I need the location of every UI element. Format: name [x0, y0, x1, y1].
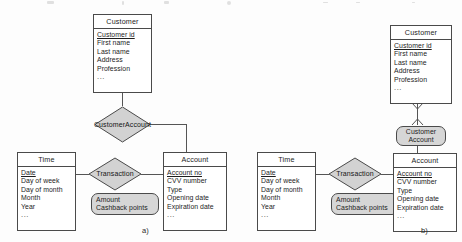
entity-attribute: Month: [21, 194, 75, 202]
entity-attribute-list: Customer id First name Last name Address…: [94, 29, 151, 82]
entity-attribute: Year: [261, 203, 315, 211]
entity-attribute-list: Account no CVV number Type Opening date …: [394, 168, 456, 221]
entity-attribute: Date: [261, 169, 315, 177]
entity-time-a: Time Date Day of week Day of month Month…: [17, 152, 76, 231]
entity-attribute: CVV number: [167, 177, 226, 185]
entity-attribute: First name: [394, 50, 451, 58]
relationship-attribute: Cashback points: [336, 204, 398, 212]
entity-attribute: Address: [394, 67, 451, 75]
entity-attribute: Day of month: [261, 186, 315, 194]
entity-attribute: ...: [394, 84, 451, 91]
connector-customer-account-to-account-h-a: [150, 124, 187, 125]
entity-title: Customer: [391, 26, 451, 40]
connector-customer-account-to-account-v-a: [186, 124, 187, 152]
entity-attribute-list: Date Day of week Day of month Month Year…: [258, 167, 315, 220]
entity-customer-a: Customer Customer id First name Last nam…: [93, 14, 152, 93]
entity-account-b: Account Account no CVV number Type Openi…: [393, 153, 457, 232]
entity-attribute: Date: [21, 169, 75, 177]
entity-time-b: Time Date Day of week Day of month Month…: [257, 152, 316, 231]
connector-customer-to-customer-account-a: [122, 93, 123, 106]
relationship-transaction-b: Transaction: [328, 157, 382, 191]
relationship-customer-account-b: Customer Account: [396, 126, 446, 146]
entity-title: Time: [18, 153, 75, 167]
entity-attribute: CVV number: [397, 178, 456, 186]
relationship-attribute: Amount: [96, 196, 158, 204]
connector-transaction-to-account-a: [141, 174, 163, 175]
scan-noise-strip: [0, 0, 462, 7]
entity-title: Account: [164, 153, 226, 167]
entity-attribute: Opening date: [167, 194, 226, 202]
entity-title: Time: [258, 153, 315, 167]
entity-attribute: Account no: [397, 170, 456, 178]
relationship-attribute: Amount: [336, 196, 398, 204]
entity-attribute: ...: [261, 211, 315, 218]
entity-attribute: Expiration date: [167, 203, 226, 211]
entity-attribute: Day of week: [21, 177, 75, 185]
relationship-customer-account-a: Customer Account: [94, 106, 151, 143]
entity-title: Account: [394, 154, 456, 168]
entity-title: Customer: [94, 15, 151, 29]
entity-attribute: Last name: [394, 59, 451, 67]
entity-attribute-list: Date Day of week Day of month Month Year…: [18, 167, 75, 220]
connector-transaction-to-account-b: [381, 174, 393, 175]
caption-b: b): [421, 226, 428, 235]
entity-attribute: Profession: [97, 65, 151, 73]
cardinality-mark-bottom-b: [411, 118, 424, 126]
entity-attribute: Day of month: [21, 186, 75, 194]
entity-attribute-list: Account no CVV number Type Opening date …: [164, 167, 226, 220]
entity-attribute: ...: [97, 73, 151, 80]
entity-attribute: Type: [167, 186, 226, 194]
entity-attribute: ...: [21, 211, 75, 218]
relationship-attributes-transaction-a: Amount Cashback points: [91, 193, 159, 215]
entity-attribute: Year: [21, 203, 75, 211]
relationship-label-line2: Account: [408, 136, 433, 144]
entity-attribute: Address: [97, 56, 151, 64]
entity-attribute: Customer id: [97, 31, 151, 39]
entity-attribute: Opening date: [397, 195, 456, 203]
entity-customer-b: Customer Customer id First name Last nam…: [390, 25, 452, 104]
entity-attribute: Month: [261, 194, 315, 202]
relationship-label-line1: Customer: [406, 128, 436, 136]
entity-attribute: Type: [397, 187, 456, 195]
relationship-attributes-transaction-b: Amount Cashback points: [331, 193, 399, 215]
er-diagram-figure: Customer Customer id First name Last nam…: [0, 0, 462, 242]
entity-attribute: ...: [167, 211, 226, 218]
entity-attribute: First name: [97, 39, 151, 47]
relationship-transaction-a: Transaction: [88, 157, 142, 191]
entity-attribute: Expiration date: [397, 204, 456, 212]
entity-attribute: Customer id: [394, 42, 451, 50]
relationship-attribute: Cashback points: [96, 204, 158, 212]
caption-a: a): [142, 226, 149, 235]
entity-account-a: Account Account no CVV number Type Openi…: [163, 152, 227, 231]
entity-attribute: Day of week: [261, 177, 315, 185]
entity-attribute: Profession: [394, 76, 451, 84]
entity-attribute: Last name: [97, 48, 151, 56]
entity-attribute: Account no: [167, 169, 226, 177]
entity-attribute: ...: [397, 212, 456, 219]
entity-attribute-list: Customer id First name Last name Address…: [391, 40, 451, 93]
